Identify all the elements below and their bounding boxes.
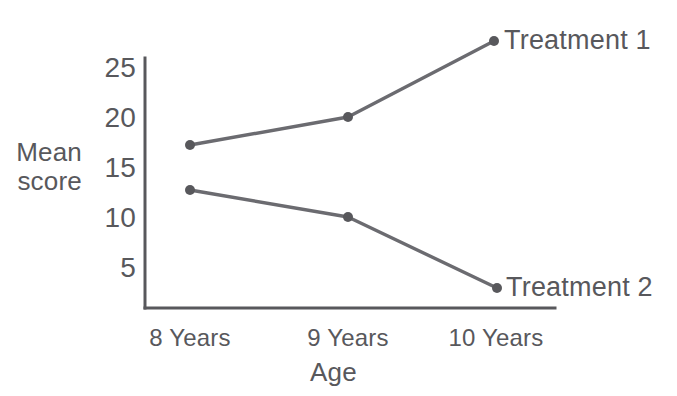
x-tick-label-10-years: 10 Years (416, 326, 576, 350)
data-point (185, 140, 195, 150)
series-treatment-1-line (190, 41, 494, 145)
series-treatment-2-line (190, 190, 497, 288)
x-axis-title: Age (310, 359, 357, 385)
data-point (343, 112, 353, 122)
data-point (492, 283, 502, 293)
data-point (343, 212, 353, 222)
y-tick-label-20: 20 (78, 104, 136, 132)
y-axis-title-line-2: score (0, 168, 82, 194)
axes (145, 58, 555, 308)
data-point (185, 185, 195, 195)
data-point (489, 36, 499, 46)
x-tick-label-9-years: 9 Years (268, 326, 428, 350)
y-axis-title-line-1: Mean (0, 139, 82, 165)
y-tick-label-25: 25 (78, 54, 136, 82)
y-tick-label-15: 15 (78, 154, 136, 182)
series-treatment-1 (185, 36, 499, 150)
line-chart: 25 20 15 10 5 Mean score 8 Years 9 Years… (0, 0, 677, 396)
series-label-treatment-2: Treatment 2 (506, 274, 653, 301)
series-treatment-2 (185, 185, 502, 293)
x-tick-label-8-years: 8 Years (110, 326, 270, 350)
y-tick-label-5: 5 (78, 254, 136, 282)
y-tick-label-10: 10 (78, 204, 136, 232)
series-label-treatment-1: Treatment 1 (504, 27, 651, 54)
